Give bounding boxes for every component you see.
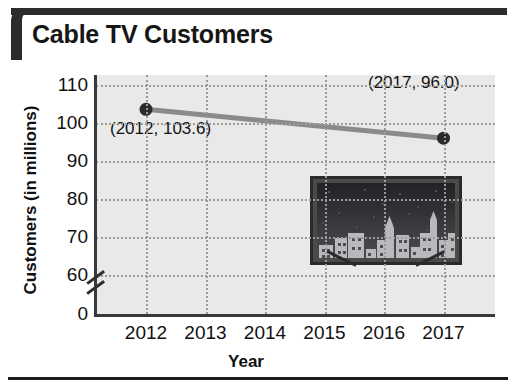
city-skyline-icon	[317, 183, 455, 258]
chart-figure: Cable TV Customers Customers (in million…	[0, 0, 516, 390]
y-axis-tick-label: 70	[42, 226, 88, 248]
gridline-vertical	[265, 75, 267, 314]
gridline-vertical	[325, 75, 327, 314]
x-axis-tick-label: 2012	[114, 322, 178, 344]
x-axis-tick-label: 2014	[233, 322, 297, 344]
gridline-horizontal	[96, 199, 495, 201]
y-axis-tick-label: 110	[42, 74, 88, 96]
television-illustration	[310, 176, 462, 286]
footer-rule	[8, 377, 508, 380]
page-title: Cable TV Customers	[32, 20, 273, 49]
gridline-vertical	[384, 75, 386, 314]
x-axis-tick-label: 2017	[412, 322, 476, 344]
y-axis-tick-labels: 110100908070600	[40, 75, 88, 314]
data-point-annotation-2012: (2012, 103.6)	[110, 119, 211, 139]
y-axis-tick-label: 90	[42, 150, 88, 172]
x-axis-tick-label: 2013	[174, 322, 238, 344]
x-axis-tick-label: 2015	[293, 322, 357, 344]
gridline-vertical	[444, 75, 446, 314]
y-axis-tick-label: 80	[42, 188, 88, 210]
gridline-horizontal	[96, 85, 495, 87]
gridline-vertical	[206, 75, 208, 314]
gridline-vertical	[146, 75, 148, 314]
plot-area: (2012, 103.6) (2017, 96.0)	[96, 75, 495, 314]
gridline-horizontal	[96, 123, 495, 125]
tv-screen	[317, 183, 455, 258]
gridline-horizontal	[96, 237, 495, 239]
axis-break-marker	[84, 272, 106, 300]
data-point-annotation-2017: (2017, 96.0)	[368, 73, 460, 93]
x-axis-spine	[94, 314, 495, 317]
y-axis-tick-label: 100	[42, 112, 88, 134]
x-axis-tick-labels: 201220132014201520162017	[96, 322, 495, 348]
gridline-horizontal	[96, 161, 495, 163]
gridline-horizontal	[96, 275, 495, 277]
x-axis-tick-label: 2016	[352, 322, 416, 344]
y-axis-tick-label: 60	[42, 264, 88, 286]
y-axis-title: Customers (in millions)	[21, 95, 41, 305]
x-axis-title: Year	[96, 352, 396, 372]
y-axis-tick-label: 0	[42, 303, 88, 325]
